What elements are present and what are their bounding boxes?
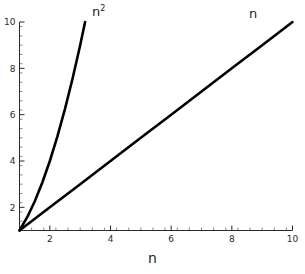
- y-axis-tick-labels: 246810: [4, 17, 16, 212]
- series-line-n-2: [20, 22, 86, 231]
- y-axis-ticks: [20, 22, 25, 231]
- curve-label-n-squared: n2: [92, 5, 105, 18]
- y-tick-label: 6: [10, 110, 16, 120]
- curve-label-n-squared-base: n: [92, 4, 100, 19]
- y-tick-label: 2: [10, 203, 16, 213]
- x-tick-label: 2: [47, 234, 53, 244]
- curve-label-n-base: n: [249, 6, 257, 21]
- curve-label-n-squared-exponent: 2: [100, 4, 105, 13]
- x-tick-label: 8: [229, 234, 235, 244]
- y-tick-label: 10: [4, 17, 16, 27]
- x-axis-tick-labels: 246810: [47, 234, 299, 244]
- chart-figure: 246810 246810 n2 n n: [0, 0, 305, 274]
- x-tick-label: 10: [287, 234, 299, 244]
- curve-label-n: n: [249, 7, 257, 20]
- x-axis-ticks: [20, 226, 293, 231]
- y-tick-label: 4: [10, 156, 16, 166]
- plot-canvas: 246810 246810: [0, 0, 305, 274]
- x-tick-label: 6: [168, 234, 174, 244]
- y-tick-label: 8: [10, 64, 16, 74]
- x-axis-title: n: [0, 250, 305, 266]
- data-series: [20, 22, 293, 231]
- x-tick-label: 4: [108, 234, 114, 244]
